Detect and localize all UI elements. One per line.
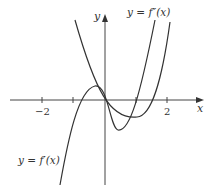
x-axis-label: x	[197, 102, 204, 115]
x-axis: −2 2 x	[10, 97, 204, 117]
tick-label-2: 2	[164, 106, 170, 117]
curve-f-double-prime	[75, 20, 170, 117]
y-axis-arrow-icon	[102, 14, 108, 22]
tick-label-neg2: −2	[35, 106, 50, 117]
y-axis-label: y	[93, 10, 101, 23]
graph-canvas: −2 2 x y y = f″(x) y = f′(x)	[0, 0, 216, 187]
curve-f-prime	[60, 20, 155, 185]
label-f-prime: y = f′(x)	[17, 154, 60, 166]
label-f-double-prime: y = f″(x)	[126, 6, 170, 18]
